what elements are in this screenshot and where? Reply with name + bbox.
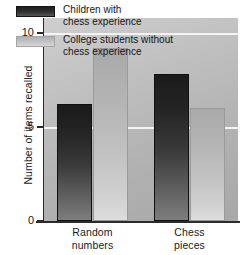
y-tick-label-5: 5 [4, 121, 34, 132]
x-category-label-chess-pieces-line1: Chess [140, 226, 240, 239]
legend-swatch-children [16, 6, 55, 17]
legend-label-college-line1: College students without [63, 34, 173, 46]
bar-college-chess-pieces [190, 108, 225, 221]
legend-label-children-line2: chess experience [63, 16, 142, 28]
chart-legend: Children with chess experience College s… [16, 4, 194, 64]
x-axis-line [36, 221, 240, 223]
bar-children-random-numbers [57, 104, 92, 221]
legend-label-children-line1: Children with [63, 4, 142, 16]
x-category-label-random-numbers-line2: numbers [43, 239, 143, 252]
bar-college-random-numbers [93, 48, 128, 221]
legend-item-children: Children with chess experience [16, 4, 194, 27]
y-tick-label-0: 0 [4, 215, 34, 226]
legend-label-college-line2: chess experience [63, 46, 173, 58]
x-category-label-chess-pieces: Chess pieces [140, 226, 240, 251]
bar-children-chess-pieces [154, 74, 189, 221]
legend-item-college: College students without chess experienc… [16, 34, 194, 57]
legend-label-college: College students without chess experienc… [63, 34, 173, 57]
bar-chart-figure: Number of items recalled 0 5 10 Children… [0, 0, 251, 255]
x-category-label-chess-pieces-line2: pieces [140, 239, 240, 252]
legend-label-children: Children with chess experience [63, 4, 142, 27]
x-category-label-random-numbers: Random numbers [43, 226, 143, 251]
y-tick-mark-5 [37, 126, 44, 128]
x-category-label-random-numbers-line1: Random [43, 226, 143, 239]
legend-swatch-college [16, 36, 55, 47]
